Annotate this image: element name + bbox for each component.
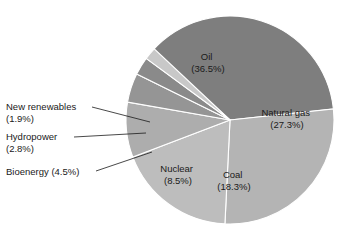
callout-label-hydropower: Hydropower (2.8%) (6, 131, 60, 154)
callout-label-new-renewables: New renewables (1.9%) (6, 101, 79, 124)
pie-chart-canvas: Oil (36.5%) Natural gas (27.3%) Coal (18… (0, 0, 346, 235)
callout-labels: New renewables (1.9%) Hydropower (2.8%) … (6, 101, 79, 177)
pie-chart-figure: Oil (36.5%) Natural gas (27.3%) Coal (18… (0, 0, 346, 235)
callout-label-bioenergy: Bioenergy (4.5%) (6, 166, 79, 177)
slice-label-nuclear: Nuclear (8.5%) (160, 163, 195, 186)
